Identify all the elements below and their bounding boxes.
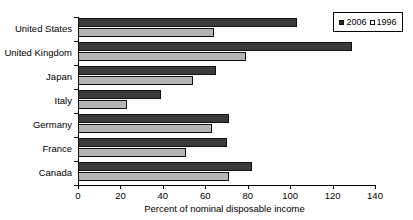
x-axis-tick xyxy=(120,185,121,189)
bar-1996 xyxy=(78,52,246,61)
bar-group xyxy=(78,137,375,161)
open-square-icon xyxy=(370,20,375,25)
x-axis-tick xyxy=(205,185,206,189)
y-axis-tick-label: Germany xyxy=(33,120,72,130)
x-axis-tick-label: 120 xyxy=(318,190,348,201)
x-axis-tick-label: 0 xyxy=(63,190,93,201)
y-axis-tick xyxy=(74,41,78,42)
bar-1996 xyxy=(78,100,127,109)
bar-1996 xyxy=(78,76,193,85)
x-axis-title: Percent of nominal disposable income xyxy=(0,203,413,214)
bar-group xyxy=(78,161,375,185)
x-axis-tick-label: 40 xyxy=(148,190,178,201)
y-axis-tick-label: Japan xyxy=(46,72,72,82)
y-axis-tick-label: France xyxy=(42,144,72,154)
bar-group xyxy=(78,89,375,113)
bar-1996 xyxy=(78,172,229,181)
x-axis-tick-label: 20 xyxy=(105,190,135,201)
y-axis-tick xyxy=(74,161,78,162)
bar-2006 xyxy=(78,18,297,27)
bar-2006 xyxy=(78,90,161,99)
bar-1996 xyxy=(78,28,214,37)
x-axis-tick xyxy=(333,185,334,189)
bar-2006 xyxy=(78,42,352,51)
legend-label-1996: 1996 xyxy=(377,17,397,27)
x-axis-tick-label: 100 xyxy=(275,190,305,201)
chart-legend: 2006 1996 xyxy=(333,12,403,32)
x-axis-tick xyxy=(248,185,249,189)
y-axis-tick-label: United States xyxy=(15,24,72,34)
bar-2006 xyxy=(78,162,252,171)
legend-label-2006: 2006 xyxy=(346,17,366,27)
y-axis-tick xyxy=(74,137,78,138)
y-axis-tick xyxy=(74,113,78,114)
bar-1996 xyxy=(78,148,186,157)
bar-group xyxy=(78,41,375,65)
bar-chart: United StatesUnited KingdomJapanItalyGer… xyxy=(0,0,413,220)
bar-group xyxy=(78,65,375,89)
plot-area xyxy=(78,17,375,185)
bar-1996 xyxy=(78,124,212,133)
bar-group xyxy=(78,17,375,41)
y-axis-tick xyxy=(74,17,78,18)
x-axis-tick xyxy=(78,185,79,189)
x-axis-line xyxy=(78,185,376,186)
bar-2006 xyxy=(78,66,216,75)
filled-square-icon xyxy=(339,20,344,25)
bar-group xyxy=(78,113,375,137)
y-axis-tick xyxy=(74,89,78,90)
bar-2006 xyxy=(78,138,227,147)
x-axis-title-text: Percent of nominal disposable income xyxy=(144,203,305,214)
x-axis-tick xyxy=(375,185,376,189)
y-axis-tick-label: Canada xyxy=(39,168,72,178)
y-axis-tick-label: United Kingdom xyxy=(4,48,72,58)
x-axis-tick-label: 60 xyxy=(190,190,220,201)
legend-entry-1996: 1996 xyxy=(370,17,397,27)
y-axis-tick xyxy=(74,65,78,66)
x-axis-tick-label: 140 xyxy=(360,190,390,201)
x-axis-tick-label: 80 xyxy=(233,190,263,201)
legend-entry-2006: 2006 xyxy=(339,17,366,27)
bar-2006 xyxy=(78,114,229,123)
y-axis-tick-label: Italy xyxy=(55,96,72,106)
x-axis-tick xyxy=(290,185,291,189)
x-axis-tick xyxy=(163,185,164,189)
